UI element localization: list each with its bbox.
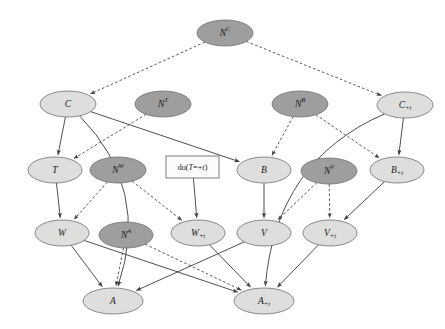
node-A[interactable]: A (83, 288, 143, 314)
node-NC[interactable]: NC (197, 20, 253, 46)
edge-W-to-A (71, 245, 102, 286)
node-Wt[interactable]: W+t (171, 220, 225, 246)
node-NV[interactable]: NV (301, 158, 357, 184)
edge-Vt-to-At (277, 245, 318, 287)
node-V[interactable]: V (237, 220, 291, 246)
edge-NB-to-B (272, 117, 293, 156)
edge-C-to-A (80, 116, 129, 286)
node-label-W: W (58, 228, 67, 238)
node-NW[interactable]: NW (90, 157, 146, 183)
node-At[interactable]: A+t (234, 288, 294, 314)
edge-Wt-to-At (209, 245, 250, 287)
edge-NW-to-W (74, 182, 107, 219)
node-NB[interactable]: NB (272, 91, 328, 117)
edge-C-to-T (58, 117, 65, 155)
edge-Ct-to-At (265, 114, 384, 286)
node-W[interactable]: W (35, 220, 89, 246)
edge-C-to-B (91, 112, 240, 162)
edge-NC-to-Ct (246, 41, 381, 95)
node-label-B: B (261, 165, 267, 175)
edge-Bt-to-Vt (344, 182, 385, 220)
edge-V-to-A (136, 242, 244, 291)
node-C[interactable]: C (40, 91, 96, 117)
do-box-label: do(T=+t) (178, 162, 208, 171)
node-label-T: T (52, 165, 58, 175)
edge-NV-to-V (278, 183, 317, 220)
node-Ct[interactable]: C+t (377, 92, 433, 118)
edge-Ct-to-Bt (399, 118, 404, 155)
node-Bt[interactable]: B+t (370, 157, 424, 183)
edge-W-to-At (84, 240, 238, 292)
intervention-layer: do(T=+t) (166, 156, 219, 178)
node-NA[interactable]: NA (99, 222, 153, 248)
node-T[interactable]: T (28, 157, 82, 183)
edge-NV-to-Vt (329, 184, 330, 218)
causal-diagram: NCCNTNBC+tTNWBNVB+tWNAW+tVV+tAA+t do(T=+… (0, 0, 445, 329)
node-NT[interactable]: NT (135, 91, 191, 117)
edge-NA-to-At (145, 244, 241, 290)
edge-NW-to-Wt (132, 181, 182, 220)
edge-NC-to-C (90, 42, 204, 94)
edge-T-to-W (56, 183, 60, 218)
node-B[interactable]: B (237, 157, 291, 183)
intervention-do-box[interactable]: do(T=+t) (166, 156, 219, 178)
node-layer: NCCNTNBC+tTNWBNVB+tWNAW+tVV+tAA+t (28, 20, 433, 314)
node-Vt[interactable]: V+t (303, 220, 357, 246)
edge-do-box-to-Wt (193, 178, 196, 218)
node-label-C: C (65, 99, 72, 109)
node-label-A: A (109, 296, 116, 306)
